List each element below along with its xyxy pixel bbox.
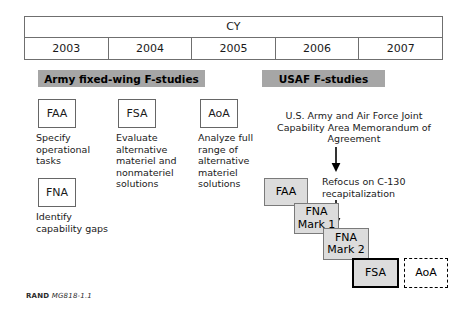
- year-cell-2006: 2006: [276, 38, 360, 59]
- year-cell-2004: 2004: [109, 38, 193, 59]
- calendar-year-row: 2003 2004 2005 2006 2007: [25, 38, 442, 59]
- usaf-box-aoa-planned: AoA: [404, 258, 448, 288]
- army-caption-fna: Identify capability gaps: [36, 211, 112, 234]
- usaf-box-fsa: FSA: [352, 258, 399, 288]
- year-cell-2003: 2003: [25, 38, 109, 59]
- figure-credit: RAND MG818-1.1: [26, 292, 92, 300]
- banner-usaf-studies: USAF F-studies: [262, 70, 385, 87]
- year-cell-2005: 2005: [192, 38, 276, 59]
- aoa-caption: Analyze full range of alternative materi…: [198, 132, 260, 190]
- usaf-box-fna-mark-2: FNA Mark 2: [323, 228, 369, 260]
- calendar-year-header: CY: [25, 17, 442, 38]
- army-caption-faa: Specify operational tasks: [36, 132, 112, 167]
- banner-army-fixed-wing: Army fixed-wing F-studies: [38, 70, 205, 87]
- army-box-faa: FAA: [38, 99, 76, 128]
- usaf-box-faa: FAA: [264, 178, 308, 206]
- figure-canvas: CY 2003 2004 2005 2006 2007 Army fixed-w…: [0, 0, 462, 316]
- moa-note: U.S. Army and Air Force Joint Capability…: [264, 110, 444, 145]
- figure-credit-org: RAND: [26, 292, 49, 300]
- refocus-note: Refocus on C-130 recapitalization: [322, 176, 422, 199]
- calendar-year-table: CY 2003 2004 2005 2006 2007: [24, 16, 443, 60]
- figure-credit-id: MG818-1.1: [52, 292, 92, 300]
- army-box-fsa: FSA: [118, 99, 156, 128]
- army-caption-fsa: Evaluate alternative materiel and nonmat…: [116, 132, 196, 190]
- aoa-box: AoA: [200, 99, 238, 128]
- army-box-fna: FNA: [38, 178, 76, 207]
- down-arrow-icon-moa: [330, 147, 342, 177]
- year-cell-2007: 2007: [359, 38, 442, 59]
